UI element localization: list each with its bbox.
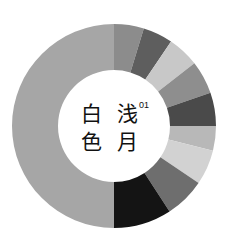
donut-chart (0, 0, 230, 252)
center-char-bai: 白 (81, 104, 102, 125)
index-number: 01 (139, 100, 149, 110)
center-char-yue: 月 (117, 132, 138, 153)
donut-segment-10 (12, 24, 114, 228)
center-char-se: 色 (81, 132, 102, 153)
center-char-qian: 浅 (117, 104, 138, 125)
